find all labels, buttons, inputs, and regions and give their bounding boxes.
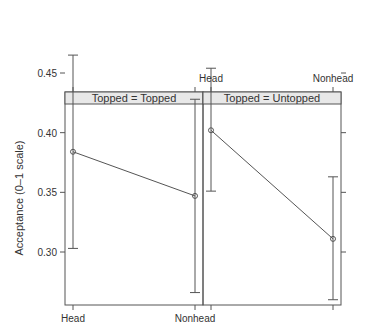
x-tick-label: Nonhead — [313, 73, 354, 84]
y-tick-label: 0.40 — [38, 128, 58, 139]
trellis-chart: Topped = ToppedHeadNonheadTopped = Untop… — [0, 0, 365, 336]
strip-label: Topped = Untopped — [224, 92, 320, 104]
series-line — [73, 152, 195, 196]
x-tick-label: Head — [61, 313, 85, 324]
series-line — [211, 130, 333, 239]
y-tick-label: 0.35 — [38, 187, 58, 198]
x-tick-label: Nonhead — [175, 313, 216, 324]
panel-2: Topped = UntoppedHeadNonhead — [199, 68, 353, 310]
strip-label: Topped = Topped — [92, 92, 177, 104]
x-tick-label: Head — [199, 73, 223, 84]
y-tick-label: 0.30 — [38, 247, 58, 258]
panel-1: Topped = ToppedHeadNonhead — [61, 55, 215, 324]
y-tick-label: 0.45 — [38, 68, 58, 79]
y-axis-label: Acceptance (0–1 scale) — [13, 141, 25, 256]
